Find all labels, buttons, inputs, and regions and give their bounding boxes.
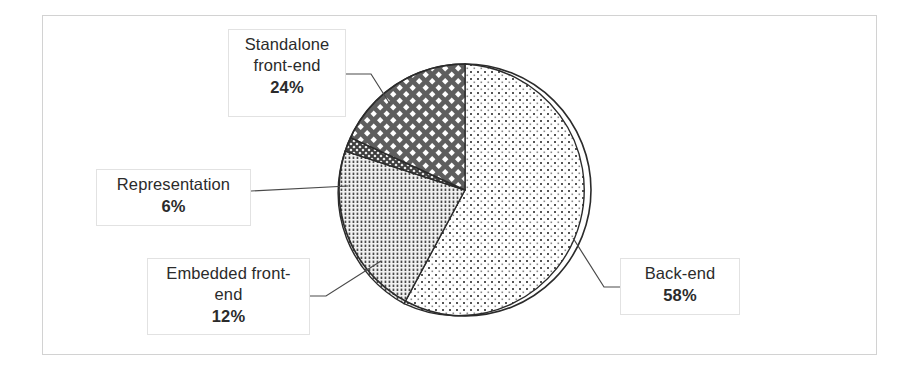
label-back-end-line1: Back-end [627, 263, 733, 284]
label-representation-value: 6% [103, 196, 244, 217]
label-standalone-line1: Standalone [235, 34, 339, 55]
leader-line-representation [251, 186, 348, 191]
label-embedded-line1: Embedded front- [154, 263, 303, 284]
label-standalone-front-end: Standalone front-end 24% [228, 29, 346, 117]
label-standalone-value: 24% [235, 77, 339, 98]
label-embedded-front-end: Embedded front- end 12% [147, 258, 310, 335]
label-back-end: Back-end 58% [620, 258, 740, 315]
label-representation: Representation 6% [96, 169, 251, 226]
label-standalone-line2: front-end [235, 55, 339, 76]
label-embedded-value: 12% [154, 306, 303, 327]
label-representation-line1: Representation [103, 174, 244, 195]
label-embedded-line2: end [154, 284, 303, 305]
label-back-end-value: 58% [627, 285, 733, 306]
leader-line-back-end [573, 238, 620, 287]
